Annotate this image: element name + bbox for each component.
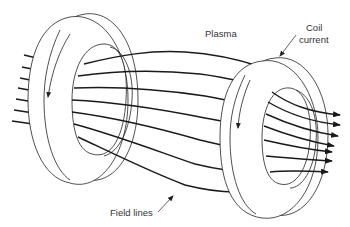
coil-current-label-line2: current bbox=[299, 34, 329, 45]
field-lines-leader bbox=[158, 196, 173, 212]
field-lines-label: Field lines bbox=[110, 207, 153, 218]
right-coil bbox=[220, 58, 328, 219]
mirror-diagram: Plasma Coil current Field lines bbox=[0, 0, 350, 227]
plasma-label: Plasma bbox=[205, 28, 237, 39]
left-coil bbox=[28, 14, 138, 185]
coil-current-label-line1: Coil bbox=[306, 22, 322, 33]
coil-current-leader bbox=[280, 35, 296, 56]
